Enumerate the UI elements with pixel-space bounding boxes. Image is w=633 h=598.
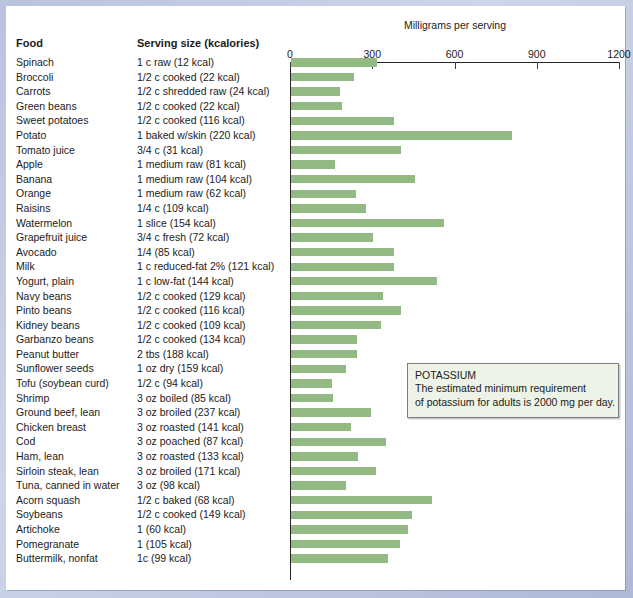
row-food-label: Navy beans: [16, 290, 71, 302]
row-bar: [291, 58, 377, 66]
row-food-label: Raisins: [16, 202, 50, 214]
row-serving-size: 1c (99 kcal): [137, 552, 191, 564]
row-food-label: Ground beef, lean: [16, 406, 100, 418]
row-food-label: Watermelon: [16, 217, 72, 229]
table-row: Kidney beans1/2 c cooked (109 kcal): [6, 319, 625, 334]
row-serving-size: 1/4 c (109 kcal): [137, 202, 209, 214]
row-food-label: Grapefruit juice: [16, 231, 87, 243]
table-row: Pomegranate1 (105 kcal): [6, 538, 625, 553]
row-bar: [291, 452, 358, 460]
callout-title: POTASSIUM: [415, 369, 611, 381]
row-food-label: Sirloin steak, lean: [16, 465, 99, 477]
chart-sheet: Food Serving size (kcalories) Milligrams…: [6, 6, 625, 590]
row-serving-size: 1/2 c shredded raw (24 kcal): [137, 85, 269, 97]
page-surface: Food Serving size (kcalories) Milligrams…: [6, 6, 625, 590]
table-row: Grapefruit juice3/4 c fresh (72 kcal): [6, 231, 625, 246]
row-bar: [291, 540, 400, 548]
row-bar: [291, 263, 394, 271]
row-food-label: Tofu (soybean curd): [16, 377, 109, 389]
row-bar: [291, 379, 332, 387]
table-row: Apple1 medium raw (81 kcal): [6, 158, 625, 173]
row-food-label: Orange: [16, 187, 51, 199]
row-bar: [291, 219, 444, 227]
table-row: Buttermilk, nonfat1c (99 kcal): [6, 552, 625, 567]
row-bar: [291, 335, 357, 343]
row-food-label: Sweet potatoes: [16, 114, 88, 126]
table-row: Sweet potatoes1/2 c cooked (116 kcal): [6, 114, 625, 129]
row-food-label: Artichoke: [16, 523, 60, 535]
row-serving-size: 2 tbs (188 kcal): [137, 348, 209, 360]
row-food-label: Soybeans: [16, 508, 63, 520]
row-bar: [291, 292, 383, 300]
row-bar: [291, 423, 351, 431]
row-serving-size: 1 (105 kcal): [137, 538, 192, 550]
row-bar: [291, 438, 386, 446]
table-row: Orange1 medium raw (62 kcal): [6, 187, 625, 202]
row-serving-size: 1 c reduced-fat 2% (121 kcal): [137, 260, 274, 272]
row-serving-size: 1/2 c cooked (22 kcal): [137, 100, 240, 112]
row-serving-size: 1 slice (154 kcal): [137, 217, 216, 229]
row-bar: [291, 190, 356, 198]
row-bar: [291, 525, 408, 533]
row-serving-size: 3 oz roasted (141 kcal): [137, 421, 244, 433]
row-serving-size: 3 oz (98 kcal): [137, 479, 200, 491]
table-row: Carrots1/2 c shredded raw (24 kcal): [6, 85, 625, 100]
row-serving-size: 3 oz poached (87 kcal): [137, 435, 243, 447]
table-row: Green beans1/2 c cooked (22 kcal): [6, 100, 625, 115]
row-food-label: Kidney beans: [16, 319, 80, 331]
table-row: Sirloin steak, lean3 oz broiled (171 kca…: [6, 465, 625, 480]
row-bar: [291, 117, 394, 125]
row-food-label: Acorn squash: [16, 494, 80, 506]
row-bar: [291, 321, 381, 329]
potassium-callout: POTASSIUM The estimated minimum requirem…: [407, 363, 619, 418]
row-food-label: Sunflower seeds: [16, 362, 94, 374]
row-bar: [291, 350, 357, 358]
row-food-label: Tomato juice: [16, 144, 75, 156]
row-food-label: Garbanzo beans: [16, 333, 94, 345]
row-food-label: Shrimp: [16, 392, 49, 404]
row-food-label: Green beans: [16, 100, 77, 112]
table-row: Avocado1/4 (85 kcal): [6, 246, 625, 261]
row-serving-size: 1/2 c cooked (116 kcal): [137, 304, 245, 316]
row-serving-size: 1 c low-fat (144 kcal): [137, 275, 234, 287]
row-serving-size: 1 baked w/skin (220 kcal): [137, 129, 255, 141]
row-food-label: Pomegranate: [16, 538, 79, 550]
row-serving-size: 1 medium raw (81 kcal): [137, 158, 246, 170]
row-serving-size: 1/2 c (94 kcal): [137, 377, 203, 389]
table-row: Potato1 baked w/skin (220 kcal): [6, 129, 625, 144]
row-serving-size: 1/4 (85 kcal): [137, 246, 195, 258]
window-frame: Food Serving size (kcalories) Milligrams…: [0, 0, 633, 598]
row-serving-size: 3 oz roasted (133 kcal): [137, 450, 244, 462]
row-serving-size: 3 oz broiled (171 kcal): [137, 465, 240, 477]
table-row: Acorn squash1/2 c baked (68 kcal): [6, 494, 625, 509]
row-serving-size: 1/2 c baked (68 kcal): [137, 494, 234, 506]
table-row: Ham, lean3 oz roasted (133 kcal): [6, 450, 625, 465]
row-bar: [291, 175, 415, 183]
callout-line-2: of potassium for adults is 2000 mg per d…: [415, 396, 611, 410]
axis-title: Milligrams per serving: [290, 19, 620, 31]
column-header-serving-size: Serving size (kcalories): [137, 37, 259, 49]
table-row: Peanut butter2 tbs (188 kcal): [6, 348, 625, 363]
row-serving-size: 1/2 c cooked (149 kcal): [137, 508, 246, 520]
table-row: Navy beans1/2 c cooked (129 kcal): [6, 290, 625, 305]
table-row: Chicken breast3 oz roasted (141 kcal): [6, 421, 625, 436]
row-serving-size: 3 oz broiled (237 kcal): [137, 406, 240, 418]
row-food-label: Avocado: [16, 246, 57, 258]
row-bar: [291, 102, 342, 110]
row-serving-size: 1/2 c cooked (22 kcal): [137, 71, 240, 83]
row-serving-size: 1 oz dry (159 kcal): [137, 362, 223, 374]
table-row: Artichoke1 (60 kcal): [6, 523, 625, 538]
row-bar: [291, 394, 333, 402]
table-row: Yogurt, plain1 c low-fat (144 kcal): [6, 275, 625, 290]
row-serving-size: 3/4 c (31 kcal): [137, 144, 203, 156]
row-bar: [291, 365, 346, 373]
row-bar: [291, 554, 388, 562]
row-serving-size: 1 medium raw (62 kcal): [137, 187, 246, 199]
row-bar: [291, 306, 401, 314]
row-serving-size: 3 oz boiled (85 kcal): [137, 392, 231, 404]
row-food-label: Spinach: [16, 56, 54, 68]
row-serving-size: 1 medium raw (104 kcal): [137, 173, 252, 185]
row-food-label: Carrots: [16, 85, 50, 97]
table-row: Soybeans1/2 c cooked (149 kcal): [6, 508, 625, 523]
row-food-label: Pinto beans: [16, 304, 71, 316]
